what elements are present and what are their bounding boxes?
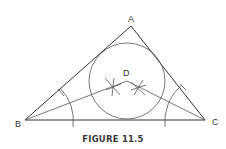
figure-caption: FIGURE 11.5 (0, 134, 226, 144)
vertex-label-c: C (212, 118, 219, 127)
arc-at-c (165, 85, 182, 127)
vertex-label-b: B (15, 120, 21, 129)
crosshatch-right (131, 80, 146, 95)
crosshatch-left (105, 78, 121, 96)
point-label-d: D (123, 69, 130, 78)
incircle-construction-diagram (0, 0, 226, 149)
triangle-abc (25, 26, 205, 120)
bisector-b (25, 81, 127, 120)
tick-ab (58, 89, 64, 96)
vertex-label-a: A (128, 15, 134, 24)
